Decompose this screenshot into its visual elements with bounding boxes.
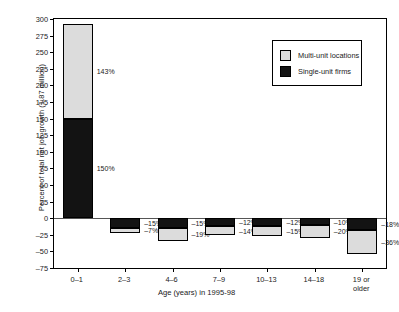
bar-value-label-multi-unit: –7% xyxy=(144,227,158,234)
x-axis-tick-label: 2–3 xyxy=(118,275,130,284)
y-axis-tick-label: 75 xyxy=(40,164,48,173)
y-axis-tick xyxy=(50,152,54,153)
y-axis-tick-label: 175 xyxy=(36,98,48,107)
y-axis-tick xyxy=(50,235,54,236)
y-axis-tick-label: 125 xyxy=(36,131,48,140)
y-axis-tick-label: –75 xyxy=(36,264,48,273)
x-axis-tick-label: 19 or older xyxy=(353,275,370,293)
bar-value-label-multi-unit: 143% xyxy=(97,68,115,75)
bar-segment-multi-unit xyxy=(63,24,93,119)
y-axis-tick xyxy=(50,251,54,252)
y-axis-tick xyxy=(50,36,54,37)
y-axis-tick-label: 200 xyxy=(36,81,48,90)
bar-segment-single-unit xyxy=(252,218,282,226)
x-axis-tick-label: 0–1 xyxy=(71,275,83,284)
y-axis-tick-label: –25 xyxy=(36,230,48,239)
legend-item-single-unit: Single-unit firms xyxy=(280,63,355,79)
legend-label-single-unit: Single-unit firms xyxy=(298,67,351,76)
y-axis-tick-label: 300 xyxy=(36,15,48,24)
x-axis-tick-label: 7–9 xyxy=(213,275,225,284)
y-axis-tick-label: –50 xyxy=(36,247,48,256)
y-axis-tick-label: 100 xyxy=(36,147,48,156)
bar-segment-single-unit xyxy=(63,119,93,219)
bar-segment-single-unit xyxy=(300,218,330,225)
y-axis-tick xyxy=(50,119,54,120)
y-axis-tick xyxy=(50,168,54,169)
y-axis-tick xyxy=(50,85,54,86)
y-axis-tick xyxy=(50,52,54,53)
legend-label-multi-unit: Multi-unit locations xyxy=(298,51,359,60)
bar-segment-multi-unit xyxy=(205,226,235,235)
y-axis-tick xyxy=(50,69,54,70)
y-axis-tick-label: 0 xyxy=(44,214,48,223)
y-axis-tick-label: 50 xyxy=(40,181,48,190)
bar-value-label-single-unit: 150% xyxy=(97,165,115,172)
bar-value-label-single-unit: –18% xyxy=(381,221,399,228)
y-axis-tick xyxy=(50,102,54,103)
x-axis-tick-label: 4–6 xyxy=(165,275,177,284)
y-axis-tick-label: 225 xyxy=(36,64,48,73)
bar-segment-single-unit xyxy=(347,218,377,230)
bar-segment-single-unit xyxy=(158,218,188,228)
y-axis-tick-label: 250 xyxy=(36,48,48,57)
y-axis-tick-label: 150 xyxy=(36,114,48,123)
chart-legend: Multi-unit locations Single-unit firms xyxy=(272,40,362,86)
y-axis-tick xyxy=(50,185,54,186)
bar-segment-single-unit xyxy=(205,218,235,226)
bar-segment-single-unit xyxy=(110,218,140,228)
y-axis-tick-label: 25 xyxy=(40,197,48,206)
legend-swatch-multi-unit-icon xyxy=(280,50,291,61)
bar-segment-multi-unit xyxy=(347,230,377,254)
bar-segment-multi-unit xyxy=(158,228,188,241)
x-axis-line xyxy=(53,268,387,269)
bar-segment-multi-unit xyxy=(110,228,140,233)
y-axis-tick xyxy=(50,202,54,203)
legend-item-multi-unit: Multi-unit locations xyxy=(280,47,355,63)
legend-swatch-single-unit-icon xyxy=(280,66,291,77)
x-axis-tick-label: 10–13 xyxy=(256,275,277,284)
bar-segment-multi-unit xyxy=(252,226,282,236)
x-axis-tick-label: 14–18 xyxy=(304,275,325,284)
y-axis-tick xyxy=(50,19,54,20)
bar-value-label-multi-unit: –36% xyxy=(381,239,399,246)
y-axis-tick xyxy=(50,135,54,136)
bar-segment-multi-unit xyxy=(300,225,330,238)
x-axis-title: Age (years) in 1995-98 xyxy=(53,288,340,297)
y-axis-tick-label: 275 xyxy=(36,31,48,40)
